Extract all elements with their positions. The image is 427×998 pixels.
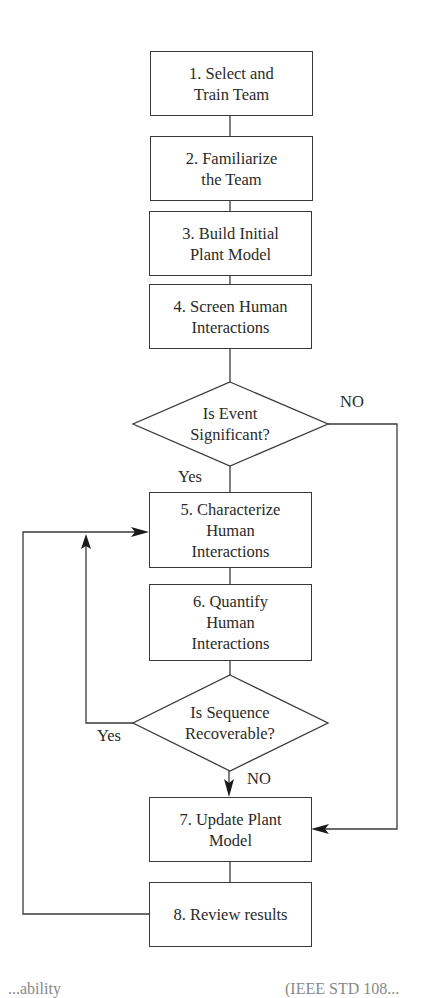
step-6-quantify-human-interactions: 6. Quantify Human Interactions [149, 584, 312, 661]
step-6-line-3: Interactions [192, 633, 270, 654]
step-4-line-2: Interactions [192, 317, 270, 338]
decision-event-significant: Is Event Significant? [160, 403, 300, 445]
connector-decision1-no [318, 424, 397, 829]
decision-1-no-label: NO [340, 393, 364, 411]
step-3-line-1: 3. Build Initial [182, 223, 279, 244]
step-1-line-1: 1. Select and [189, 63, 274, 84]
step-5-line-1: 5. Characterize [181, 499, 281, 520]
footer-clipped-right: (IEEE STD 108... [285, 980, 399, 998]
step-2-line-1: 2. Familiarize [186, 148, 278, 169]
decision-2-yes-label: Yes [97, 727, 121, 745]
step-5-line-2: Human [206, 520, 255, 541]
step-1-line-2: Train Team [194, 84, 269, 105]
step-2-line-2: the Team [201, 169, 261, 190]
step-3-build-initial-plant-model: 3. Build Initial Plant Model [149, 211, 312, 276]
step-8-line-1: 8. Review results [173, 904, 287, 925]
step-2-familiarize-team: 2. Familiarize the Team [150, 136, 313, 201]
step-7-update-plant-model: 7. Update Plant Model [149, 797, 312, 862]
decision-2-no-label: NO [247, 770, 271, 788]
step-7-line-2: Model [209, 830, 252, 851]
step-6-line-2: Human [206, 612, 255, 633]
connector-decision2-yes [86, 545, 133, 723]
decision-sequence-recoverable: Is Sequence Recoverable? [155, 702, 305, 744]
step-4-screen-human-interactions: 4. Screen Human Interactions [149, 284, 312, 349]
step-5-line-3: Interactions [192, 541, 270, 562]
step-4-line-1: 4. Screen Human [173, 296, 287, 317]
decision-1-line-1: Is Event [160, 403, 300, 424]
step-8-review-results: 8. Review results [149, 882, 312, 947]
decision-2-line-2: Recoverable? [155, 723, 305, 744]
step-5-characterize-human-interactions: 5. Characterize Human Interactions [149, 492, 312, 568]
step-7-line-1: 7. Update Plant [179, 809, 281, 830]
footer-clipped-left: ...ability [8, 980, 61, 998]
step-1-select-train-team: 1. Select and Train Team [150, 51, 313, 116]
step-6-line-1: 6. Quantify [193, 591, 268, 612]
decision-1-line-2: Significant? [160, 424, 300, 445]
decision-1-yes-label: Yes [178, 468, 202, 486]
step-3-line-2: Plant Model [190, 244, 271, 265]
decision-2-line-1: Is Sequence [155, 702, 305, 723]
